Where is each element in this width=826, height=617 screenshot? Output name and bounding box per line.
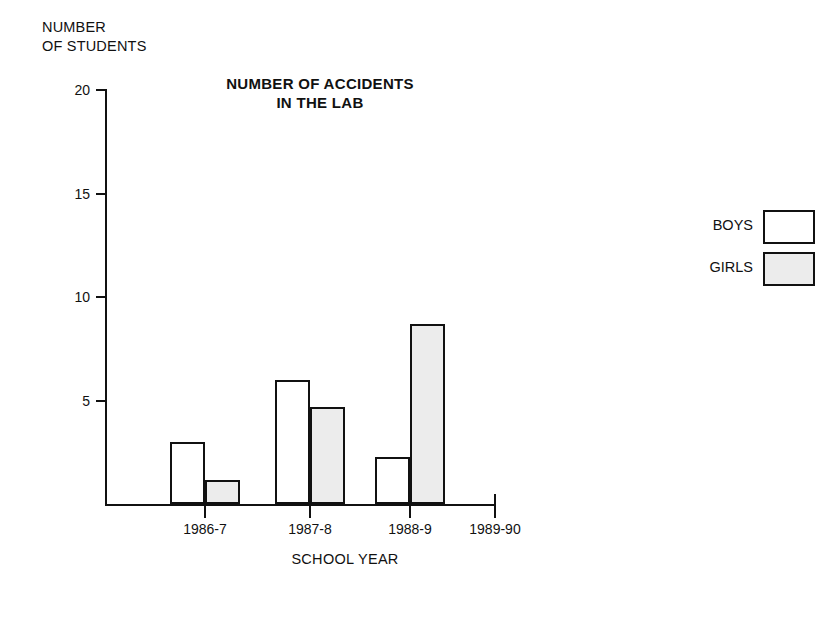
x-axis-title: SCHOOL YEAR xyxy=(180,551,510,567)
x-tick-label-1986-7: 1986-7 xyxy=(145,521,265,537)
legend-swatch-girls xyxy=(763,252,815,286)
legend-swatch-boys xyxy=(763,210,815,244)
bar-girls-1987-8 xyxy=(310,407,345,504)
bar-boys-1986-7 xyxy=(170,442,205,504)
x-tick-label-1989-90: 1989-90 xyxy=(435,521,555,537)
y-tick-label: 15 xyxy=(50,186,90,202)
chart-title: NUMBER OF ACCIDENTSIN THE LAB xyxy=(185,74,455,112)
legend: BOYSGIRLS xyxy=(690,208,815,292)
chart-title-line-2: IN THE LAB xyxy=(276,94,363,111)
bar-boys-1988-9 xyxy=(375,457,410,505)
x-tick-1987-8 xyxy=(309,506,311,518)
bar-girls-1988-9 xyxy=(410,324,445,504)
y-tick-10 xyxy=(96,296,107,298)
y-tick-20 xyxy=(96,89,107,91)
x-axis-end-cap xyxy=(494,494,496,506)
y-axis-title-line-2: OF STUDENTS xyxy=(42,38,147,54)
legend-item-boys: BOYS xyxy=(690,208,815,250)
y-axis-title: NUMBEROF STUDENTS xyxy=(42,18,147,56)
x-tick-1988-9 xyxy=(409,506,411,518)
y-axis-title-line-1: NUMBER xyxy=(42,19,106,35)
y-tick-label: 20 xyxy=(50,82,90,98)
y-tick-label: 10 xyxy=(50,289,90,305)
y-tick-15 xyxy=(96,193,107,195)
chart-canvas: NUMBEROF STUDENTS NUMBER OF ACCIDENTSIN … xyxy=(0,0,826,617)
chart-title-line-1: NUMBER OF ACCIDENTS xyxy=(226,75,414,92)
legend-item-girls: GIRLS xyxy=(690,250,815,292)
x-tick-1989-90 xyxy=(494,506,496,518)
bar-boys-1987-8 xyxy=(275,380,310,504)
legend-label-girls: GIRLS xyxy=(709,259,753,275)
y-tick-5 xyxy=(96,400,107,402)
bar-girls-1986-7 xyxy=(205,480,240,505)
y-tick-label: 5 xyxy=(50,393,90,409)
legend-label-boys: BOYS xyxy=(713,217,753,233)
x-tick-1986-7 xyxy=(204,506,206,518)
